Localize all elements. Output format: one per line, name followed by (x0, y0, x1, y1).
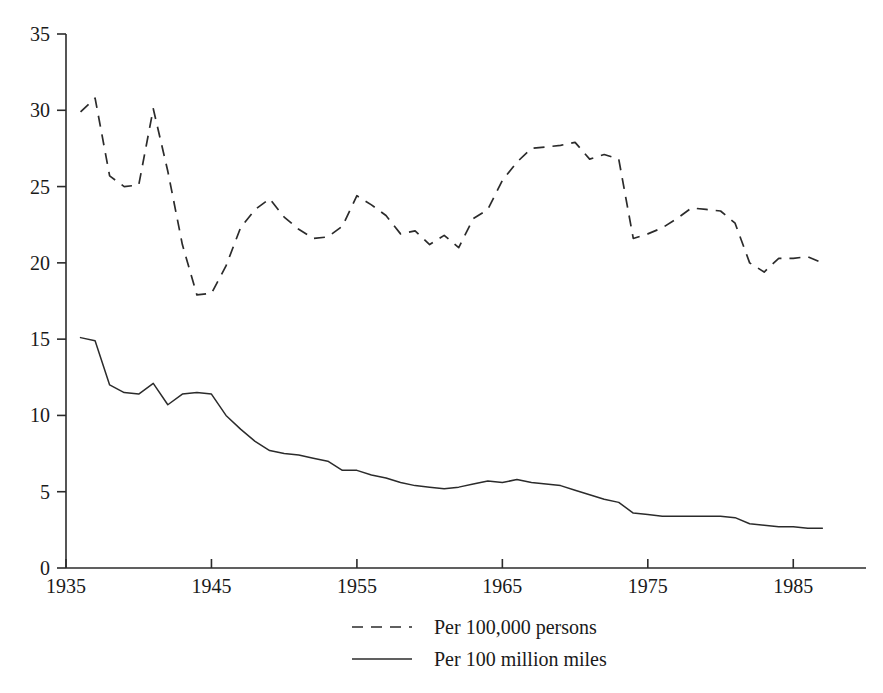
series-line-1 (81, 338, 823, 529)
legend-label-0: Per 100,000 persons (434, 616, 597, 639)
chart-container: 05101520253035 193519451955196519751985 … (0, 0, 883, 693)
x-tick-label: 1965 (482, 575, 522, 597)
chart-legend: Per 100,000 personsPer 100 million miles (352, 616, 607, 670)
y-tick-label: 35 (30, 23, 50, 45)
y-axis-tick-labels: 05101520253035 (30, 23, 50, 579)
x-tick-label: 1945 (191, 575, 231, 597)
x-axis-ticks (66, 559, 793, 568)
x-axis-tick-labels: 193519451955196519751985 (46, 575, 813, 597)
line-chart: 05101520253035 193519451955196519751985 … (0, 0, 883, 693)
y-tick-label: 10 (30, 404, 50, 426)
chart-series-layer (81, 98, 823, 528)
y-tick-label: 5 (40, 481, 50, 503)
x-tick-label: 1985 (773, 575, 813, 597)
series-line-0 (81, 98, 823, 295)
x-tick-label: 1955 (337, 575, 377, 597)
x-tick-label: 1935 (46, 575, 86, 597)
y-tick-label: 20 (30, 252, 50, 274)
y-tick-label: 25 (30, 176, 50, 198)
chart-axes (57, 34, 866, 568)
x-tick-label: 1975 (628, 575, 668, 597)
legend-label-1: Per 100 million miles (434, 648, 607, 670)
y-tick-label: 15 (30, 328, 50, 350)
y-axis-ticks (57, 34, 66, 568)
y-tick-label: 30 (30, 99, 50, 121)
